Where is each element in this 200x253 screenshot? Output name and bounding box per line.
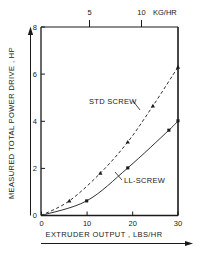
x-axis-title: EXTRUDER OUTPUT , LBS/HR [46,230,163,239]
data-point [167,129,170,132]
top-axis-unit-label: KG/HR [153,8,177,17]
top-axis-tick-label-5: 5 [87,8,91,17]
y-axis-tick-label-0: 0 [33,211,37,220]
annotation-std-screw: STD SCREW [89,97,140,110]
y-axis-group: 8 6 4 2 0 MEASURED TOTAL POWER DRIVE , H… [7,23,45,220]
series-markers-ll-screw [85,119,179,202]
x-axis-tick-label-20: 20 [129,219,137,228]
data-point [126,166,129,169]
data-point [151,104,155,108]
x-axis-tick-label-0: 0 [39,219,43,228]
power-vs-output-chart: 5 10 KG/HR 8 6 4 2 0 MEASURED TOTAL POWE [0,0,200,253]
series-label-std-screw: STD SCREW [89,97,137,106]
series-label-ll-screw: LL-SCREW [124,176,166,185]
plot-frame [41,27,178,216]
top-axis-group: 5 10 KG/HR [41,8,178,27]
data-point [176,119,179,122]
y-axis-tick-label-8: 8 [33,23,37,32]
data-point [176,65,180,69]
top-axis-tick-label-10: 10 [137,8,145,17]
y-axis-tick-label-6: 6 [33,70,37,79]
x-axis-group: 0 10 20 30 EXTRUDER OUTPUT , LBS/HR [39,212,193,247]
series-line-ll-screw [41,121,178,216]
x-axis-arrowhead [185,241,193,246]
y-axis-title: MEASURED TOTAL POWER DRIVE , HP [7,47,16,199]
annotation-ll-screw: LL-SCREW [115,172,166,185]
chart-figure: 5 10 KG/HR 8 6 4 2 0 MEASURED TOTAL POWE [0,0,200,253]
series-ll-screw [41,119,180,215]
series-std-screw [41,65,180,216]
y-axis-tick-label-2: 2 [33,164,37,173]
x-axis-tick-label-10: 10 [83,219,91,228]
data-point [85,199,88,202]
x-axis-tick-label-30: 30 [174,219,182,228]
data-point [126,140,130,144]
y-axis-tick-label-4: 4 [33,117,37,126]
